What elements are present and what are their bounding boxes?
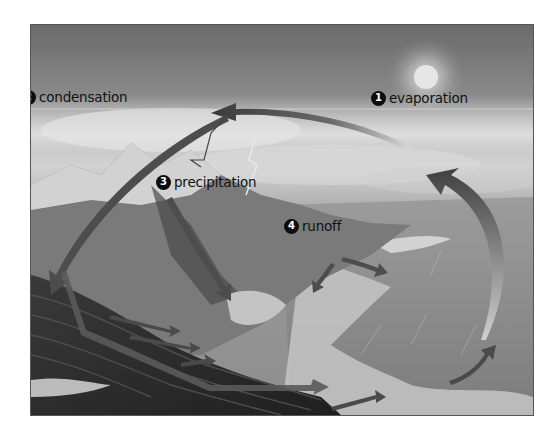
water-cycle-diagram: 1 evaporation 2 condensation 3 precipita…: [30, 24, 534, 416]
stage-label-evaporation: 1 evaporation: [371, 90, 468, 106]
stage-badge: 2: [30, 90, 36, 105]
stage-text: runoff: [302, 218, 341, 234]
stage-label-condensation: 2 condensation: [30, 89, 127, 105]
stage-badge: 3: [156, 175, 171, 190]
stage-label-precipitation: 3 precipitation: [156, 174, 256, 190]
stage-badge: 4: [284, 219, 299, 234]
stage-label-runoff: 4 runoff: [284, 218, 341, 234]
water-cycle-illustration: [31, 25, 533, 415]
stage-badge: 1: [371, 91, 386, 106]
stage-text: condensation: [39, 89, 127, 105]
stage-text: evaporation: [389, 90, 468, 106]
stage-text: precipitation: [174, 174, 256, 190]
